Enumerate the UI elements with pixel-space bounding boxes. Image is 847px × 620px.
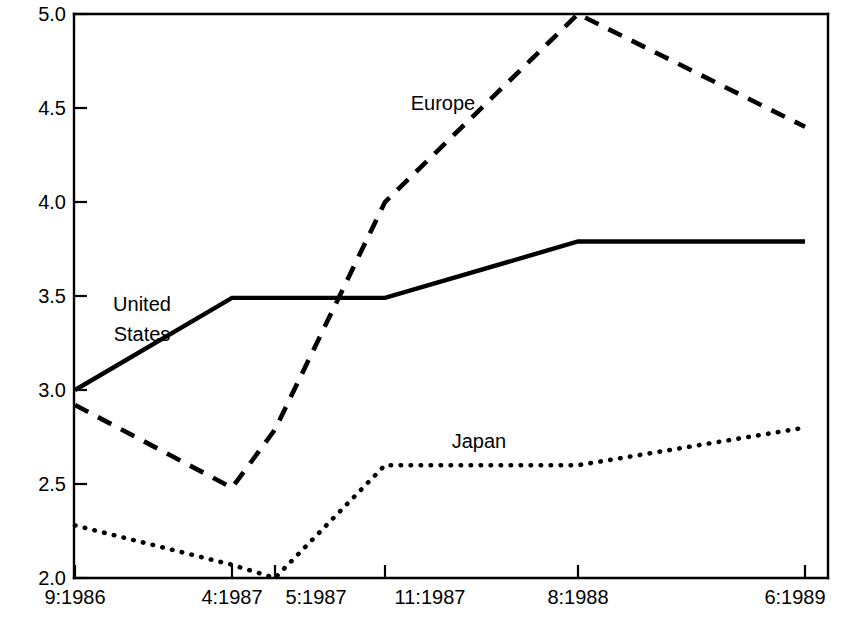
x-tick-label-5: 6:1989 bbox=[764, 586, 825, 608]
line-chart: 5.0 4.5 4.0 3.5 3.0 2.5 2.0 9:1986 4:198… bbox=[0, 0, 847, 620]
x-axis-tick-labels: 9:1986 4:1987 5:1987 11:1987 8:1988 6:19… bbox=[44, 586, 825, 608]
x-tick-label-3: 11:1987 bbox=[395, 586, 466, 608]
series-line-europe bbox=[75, 14, 805, 488]
y-tick-label-5: 2.5 bbox=[38, 473, 66, 495]
x-tick-label-4: 8:1988 bbox=[547, 586, 608, 608]
annotation-united-states: United States bbox=[113, 293, 171, 345]
x-tick-label-0: 9:1986 bbox=[44, 586, 105, 608]
chart-plot-area: 5.0 4.5 4.0 3.5 3.0 2.5 2.0 9:1986 4:198… bbox=[0, 0, 847, 620]
annotation-europe: Europe bbox=[411, 92, 476, 114]
y-tick-label-2: 4.0 bbox=[38, 191, 66, 213]
y-tick-label-4: 3.0 bbox=[38, 379, 66, 401]
y-tick-label-0: 5.0 bbox=[38, 3, 66, 25]
y-axis-tick-labels: 5.0 4.5 4.0 3.5 3.0 2.5 2.0 bbox=[38, 3, 66, 589]
y-tick-label-3: 3.5 bbox=[38, 285, 66, 307]
x-tick-label-1: 4:1987 bbox=[201, 586, 262, 608]
series-line-united-states bbox=[75, 242, 805, 391]
annotation-japan: Japan bbox=[452, 430, 507, 452]
y-axis-ticks bbox=[74, 14, 87, 578]
x-axis-ticks bbox=[75, 565, 805, 578]
x-tick-label-2: 5:1987 bbox=[285, 586, 346, 608]
annotation-united-states-line2: States bbox=[114, 323, 171, 345]
y-tick-label-1: 4.5 bbox=[38, 97, 66, 119]
series-line-japan bbox=[75, 428, 805, 578]
annotation-united-states-line1: United bbox=[113, 293, 171, 315]
